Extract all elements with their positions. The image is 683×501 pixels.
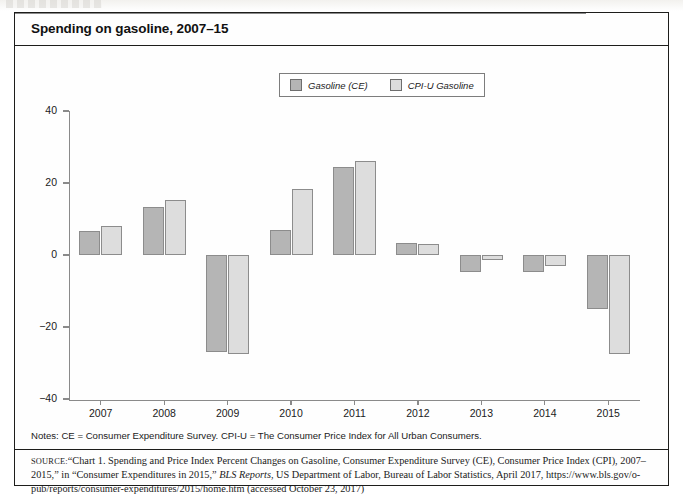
bar-2013-gasoline-ce <box>460 255 481 272</box>
legend-swatch-cpi-u-gasoline <box>390 79 402 91</box>
bar-2012-cpi-u-gasoline <box>418 244 439 255</box>
x-axis-tick <box>608 400 609 405</box>
x-axis-tick <box>544 400 545 405</box>
x-axis-line <box>69 400 640 401</box>
bar-2013-cpi-u-gasoline <box>482 255 503 260</box>
x-axis-label-2010: 2010 <box>261 407 321 419</box>
legend-item-cpi-u-gasoline[interactable]: CPI-U Gasoline <box>390 79 474 91</box>
y-axis-tick <box>63 182 69 183</box>
y-axis-line <box>69 111 70 400</box>
figure-source: Source:“Chart 1. Spending and Price Inde… <box>31 454 655 495</box>
y-axis-tick <box>63 398 69 399</box>
y-axis-label: 20 <box>15 176 57 188</box>
y-axis-label: −20 <box>15 320 57 332</box>
y-axis-label: −40 <box>15 392 57 404</box>
x-axis-label-2009: 2009 <box>198 407 258 419</box>
bar-2015-cpi-u-gasoline <box>609 255 630 354</box>
legend-label: CPI-U Gasoline <box>408 80 474 91</box>
bar-2011-gasoline-ce <box>333 167 354 255</box>
bar-2009-cpi-u-gasoline <box>228 255 249 354</box>
bar-2007-cpi-u-gasoline <box>101 226 122 255</box>
x-axis-label-2007: 2007 <box>71 407 131 419</box>
x-axis-label-2012: 2012 <box>388 407 448 419</box>
bar-2007-gasoline-ce <box>79 231 100 255</box>
y-axis-label: 0 <box>15 248 57 260</box>
x-axis-label-2014: 2014 <box>515 407 575 419</box>
bar-2014-gasoline-ce <box>523 255 544 272</box>
x-axis-tick <box>354 400 355 405</box>
bar-2009-gasoline-ce <box>206 255 227 352</box>
legend-swatch-gasoline-ce <box>290 79 302 91</box>
y-axis-tick <box>63 110 69 111</box>
source-publication-title: BLS Reports <box>219 469 271 480</box>
bar-2015-gasoline-ce <box>587 255 608 309</box>
bar-2008-cpi-u-gasoline <box>165 200 186 255</box>
y-axis-tick <box>63 254 69 255</box>
y-axis-tick <box>63 326 69 327</box>
notes-source-divider <box>15 449 668 450</box>
scan-artifact-smudge <box>6 0 102 8</box>
scan-artifact-band <box>0 0 683 11</box>
legend-label: Gasoline (CE) <box>308 80 368 91</box>
x-axis-label-2015: 2015 <box>578 407 638 419</box>
chart-legend: Gasoline (CE)CPI-U Gasoline <box>279 73 485 97</box>
x-axis-label-2008: 2008 <box>134 407 194 419</box>
x-axis-tick <box>417 400 418 405</box>
x-axis-tick <box>290 400 291 405</box>
bar-2010-gasoline-ce <box>270 230 291 255</box>
bar-2014-cpi-u-gasoline <box>545 255 566 266</box>
x-axis-label-2013: 2013 <box>451 407 511 419</box>
legend-item-gasoline-ce[interactable]: Gasoline (CE) <box>290 79 368 91</box>
x-axis-tick <box>164 400 165 405</box>
y-axis-label: 40 <box>15 104 57 116</box>
bar-2010-cpi-u-gasoline <box>292 189 313 255</box>
x-axis-tick <box>227 400 228 405</box>
x-axis-tick <box>100 400 101 405</box>
bar-2011-cpi-u-gasoline <box>355 161 376 255</box>
figure-container: Spending on gasoline, 2007–15 Gasoline (… <box>14 12 669 486</box>
x-axis-tick <box>481 400 482 405</box>
source-label: Source: <box>31 457 68 466</box>
x-axis-label-2011: 2011 <box>325 407 385 419</box>
bar-2008-gasoline-ce <box>143 207 164 255</box>
bar-2012-gasoline-ce <box>396 243 417 255</box>
page-title: Spending on gasoline, 2007–15 <box>31 21 228 36</box>
figure-title-band: Spending on gasoline, 2007–15 <box>15 13 668 46</box>
figure-notes: Notes: CE = Consumer Expenditure Survey.… <box>31 430 482 441</box>
